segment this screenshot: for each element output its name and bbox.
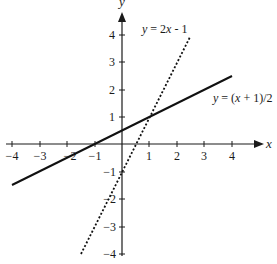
line-y-equals-2x-minus-1 (81, 37, 190, 254)
x-axis-arrow-icon (254, 140, 264, 148)
x-tick-label: −1 (89, 149, 102, 163)
y-tick-label: 3 (109, 55, 115, 69)
x-tick-label: −3 (34, 149, 47, 163)
y-tick-label: 4 (109, 28, 115, 42)
y-tick-label: 1 (109, 110, 115, 124)
equation-label-dotted: y = 2x - 1 (141, 22, 187, 36)
y-tick-label: −1 (103, 165, 116, 179)
equation-label-solid: y = (x + 1)/2 (212, 91, 273, 105)
x-tick-label: 3 (201, 149, 207, 163)
x-tick-label: 4 (229, 149, 235, 163)
x-axis-label: x (265, 136, 272, 151)
x-tick-label: −4 (6, 149, 19, 163)
x-axis: x −4 −3 −2 −1 1 2 3 4 (6, 136, 272, 163)
y-tick-label: −3 (103, 220, 116, 234)
x-tick-label: 2 (174, 149, 180, 163)
y-axis-arrow-icon (118, 12, 126, 22)
y-tick-label: −4 (103, 247, 116, 261)
x-tick-label: 1 (146, 149, 152, 163)
y-axis-label: y (117, 0, 125, 9)
y-tick-label: 2 (109, 83, 115, 97)
coordinate-plane: x −4 −3 −2 −1 1 2 3 4 y (0, 0, 277, 264)
